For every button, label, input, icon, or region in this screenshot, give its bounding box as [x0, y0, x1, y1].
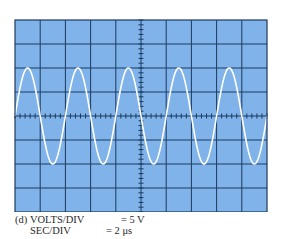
- oscilloscope-screen: [0, 0, 282, 212]
- volts-div-label: VOLTS/DIV: [30, 214, 121, 225]
- sec-per-div-caption: SEC/DIV= 2 μs: [30, 225, 132, 236]
- figure-label: (d): [15, 214, 27, 225]
- volts-per-div-caption: (d) VOLTS/DIV= 5 V: [15, 214, 145, 225]
- sec-div-label: SEC/DIV: [30, 225, 106, 236]
- volts-div-value: = 5 V: [121, 214, 145, 225]
- sec-div-value: = 2 μs: [106, 225, 132, 236]
